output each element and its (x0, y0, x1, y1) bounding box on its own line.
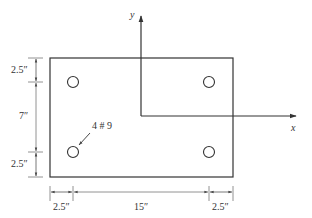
dim-label-left-cover: 2.5″ (53, 201, 70, 212)
x-axis-label: x (290, 122, 296, 133)
column-section-diagram: y x 4 # 9 2.5″ 7″ 2.5″ 2.5″ 15″ 2.5″ (0, 0, 312, 218)
bar-top-left (68, 77, 79, 88)
dim-label-bottom-cover: 2.5″ (11, 158, 28, 169)
dim-label-right-cover: 2.5″ (212, 201, 229, 212)
bar-bottom-left (68, 147, 79, 158)
dim-label-top-cover: 2.5″ (11, 64, 28, 75)
bar-bottom-right (204, 147, 215, 158)
y-axis-label: y (129, 9, 135, 20)
dim-label-bar-spacing-v: 7″ (19, 110, 28, 121)
dim-label-bar-spacing-h: 15″ (134, 201, 148, 212)
bar-callout-label: 4 # 9 (92, 120, 112, 131)
bar-top-right (204, 77, 215, 88)
bar-callout-leader (79, 133, 90, 145)
